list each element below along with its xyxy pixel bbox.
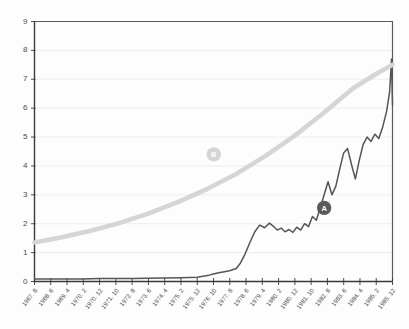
marker-label: A xyxy=(321,204,327,213)
x-tick-label: 1978. 6 xyxy=(232,286,251,307)
x-tick-label: 1977. 8 xyxy=(216,286,235,307)
x-tick-label: 1979. 4 xyxy=(248,286,267,307)
x-axis-labels: 1967. 81968. 61969. 41970. 21970. 121971… xyxy=(20,286,397,310)
x-tick-label: 1968. 6 xyxy=(37,286,56,307)
y-tick-label: 0 xyxy=(23,277,28,286)
y-tick-label: 9 xyxy=(23,17,28,26)
x-tick-label: 1974. 4 xyxy=(150,286,169,307)
marker-label: B xyxy=(211,150,217,159)
y-tick-label: 8 xyxy=(23,45,28,54)
x-tick-label: 1972. 8 xyxy=(118,286,137,307)
x-tick-label: 1984. 4 xyxy=(346,286,365,307)
y-tick-label: 5 xyxy=(23,132,28,141)
y-tick-label: 1 xyxy=(23,248,28,257)
y-tick-label: 3 xyxy=(23,190,28,199)
y-tick-label: 2 xyxy=(23,219,28,228)
y-axis-labels: 0123456789 xyxy=(23,17,28,286)
line-chart: AB 0123456789 1967. 81968. 61969. 41970.… xyxy=(0,0,409,329)
x-tick-label: 1981. 10 xyxy=(295,286,316,310)
y-tick-label: 7 xyxy=(23,74,28,83)
x-tick-label: 1969. 4 xyxy=(53,286,72,307)
x-tick-label: 1983. 6 xyxy=(329,286,348,307)
y-tick-label: 6 xyxy=(23,103,28,112)
chart-container: AB 0123456789 1967. 81968. 61969. 41970.… xyxy=(0,0,409,329)
series-line-a xyxy=(35,59,393,279)
x-tick-label: 1982. 8 xyxy=(313,286,332,307)
x-tick-label: 1976. 10 xyxy=(197,286,218,310)
x-tick-label: 1985. 12 xyxy=(376,286,397,310)
x-tick-label: 1967. 8 xyxy=(20,286,39,307)
annotation-marker-a[interactable]: A xyxy=(317,201,331,215)
y-tick-label: 4 xyxy=(23,161,28,170)
x-tick-label: 1973. 6 xyxy=(134,286,153,307)
gridlines-group xyxy=(35,22,393,253)
series-group xyxy=(35,59,393,279)
x-tick-label: 1971. 10 xyxy=(100,286,121,310)
annotation-marker-b[interactable]: B xyxy=(207,147,221,161)
